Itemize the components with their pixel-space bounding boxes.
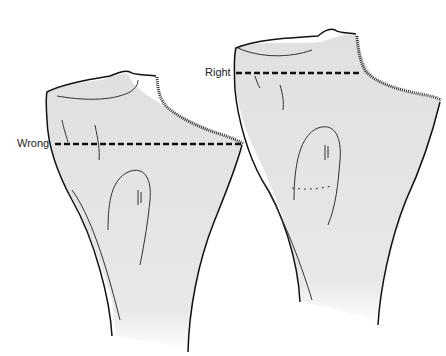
tibia-comparison-figure: Wrong Right [0, 0, 446, 356]
right-label: Right [205, 66, 231, 78]
left-bone-fill [47, 74, 242, 352]
wrong-label: Wrong [17, 137, 49, 149]
right-bone-fill [234, 34, 440, 325]
right-tibia [234, 29, 441, 325]
left-tibia [46, 71, 243, 352]
bone-illustration [0, 0, 446, 356]
